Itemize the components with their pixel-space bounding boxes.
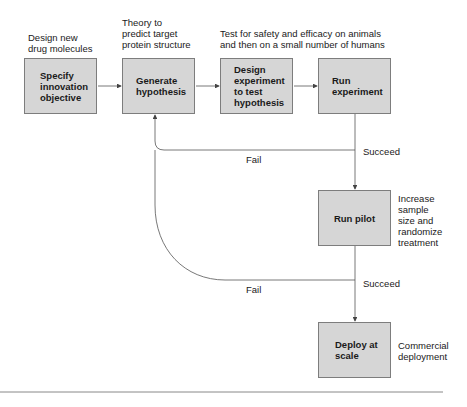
node-specify-objective: Specify innovation objective: [24, 58, 97, 114]
node-deploy-at-scale: Deploy at scale: [318, 322, 391, 378]
annotation-pilot: Increase sample size and randomize treat…: [398, 193, 442, 248]
edge-label-fail-1: Fail: [246, 154, 261, 165]
annotation-deploy: Commercial deployment: [398, 340, 449, 362]
annotation-generate: Theory to predict target protein structu…: [122, 17, 191, 50]
node-design-experiment: Design experiment to test hypothesis: [220, 58, 293, 114]
node-label: Generate hypothesis: [136, 75, 186, 97]
node-label: Run pilot: [334, 213, 375, 224]
node-label: Specify innovation objective: [40, 70, 88, 103]
node-label: Design experiment to test hypothesis: [234, 64, 285, 108]
node-label: Deploy at scale: [335, 339, 378, 361]
edge-label-succeed-1: Succeed: [363, 146, 400, 157]
annotation-specify: Design new drug molecules: [28, 32, 92, 54]
node-generate-hypothesis: Generate hypothesis: [122, 58, 195, 114]
node-run-experiment: Run experiment: [318, 58, 391, 114]
edge-label-succeed-2: Succeed: [363, 278, 400, 289]
edge-label-fail-2: Fail: [246, 284, 261, 295]
node-label: Run experiment: [332, 75, 383, 97]
node-run-pilot: Run pilot: [318, 190, 391, 246]
annotation-test: Test for safety and efficacy on animals …: [220, 28, 385, 50]
